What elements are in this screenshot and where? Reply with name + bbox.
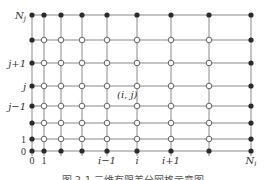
boundary-node [79, 12, 84, 17]
interior-node [58, 136, 64, 142]
y-axis-label: j [21, 81, 26, 92]
interior-node [79, 136, 85, 142]
interior-node [134, 136, 140, 142]
interior-node [58, 60, 64, 66]
interior-node [206, 136, 212, 142]
boundary-node [134, 12, 139, 17]
boundary-node [168, 12, 173, 17]
interior-node [104, 120, 110, 126]
boundary-node [29, 83, 34, 88]
boundary-node [248, 37, 253, 42]
boundary-node [134, 148, 139, 153]
x-axis-label: i−1 [98, 155, 116, 166]
interior-node [168, 103, 174, 109]
interior-node [104, 37, 110, 43]
interior-node [134, 103, 140, 109]
boundary-node [248, 83, 253, 88]
boundary-node [58, 148, 63, 153]
boundary-node [104, 12, 109, 17]
boundary-node [206, 148, 211, 153]
y-axis-label: j+1 [6, 58, 26, 69]
boundary-node [29, 12, 34, 17]
boundary-node [206, 12, 211, 17]
boundary-node [248, 60, 253, 65]
interior-node [41, 83, 47, 89]
point-label-i-j: (i, j) [117, 89, 138, 100]
interior-node [206, 120, 212, 126]
interior-node [41, 37, 47, 43]
boundary-node [29, 60, 34, 65]
boundary-node [79, 148, 84, 153]
boundary-node [168, 148, 173, 153]
interior-node [41, 120, 47, 126]
interior-node [104, 136, 110, 142]
interior-node [41, 60, 47, 66]
boundary-node [248, 12, 253, 17]
boundary-node [248, 103, 253, 108]
boundary-node [248, 120, 253, 125]
boundary-node [104, 148, 109, 153]
interior-node [206, 103, 212, 109]
x-axis-label: 0 [30, 155, 35, 166]
interior-node [168, 120, 174, 126]
interior-node [168, 37, 174, 43]
boundary-node [41, 12, 46, 17]
y-axis-label: Nj [14, 10, 27, 23]
boundary-node [29, 37, 34, 42]
y-axis-label: j−1 [6, 101, 26, 112]
interior-node [58, 103, 64, 109]
x-axis-label: i+1 [162, 155, 180, 166]
boundary-node [41, 148, 46, 153]
interior-node [168, 136, 174, 142]
finite-difference-grid-diagram: 01i−1ii+1Ni 01j−1jj+1Nj (i, j) 图 2-1 二维有… [0, 0, 267, 180]
boundary-node [58, 12, 63, 17]
interior-node [134, 83, 140, 89]
boundary-node [248, 148, 253, 153]
boundary-node [248, 136, 253, 141]
x-axis-label: 1 [42, 155, 47, 166]
y-axis-label: 0 [21, 146, 26, 157]
interior-node [104, 103, 110, 109]
y-axis-labels: 01j−1jj+1Nj [6, 10, 27, 157]
grid-lines [32, 15, 251, 156]
interior-node [206, 83, 212, 89]
grid-nodes [29, 12, 253, 153]
interior-node [79, 60, 85, 66]
interior-node [41, 103, 47, 109]
interior-node [168, 60, 174, 66]
x-axis-label: i [135, 155, 138, 166]
x-axis-label: Ni [245, 155, 257, 168]
x-axis-labels: 01i−1ii+1Ni [30, 155, 257, 168]
figure-caption: 图 2-1 二维有限差分网格示意图 [62, 174, 205, 180]
interior-node [58, 37, 64, 43]
interior-node [79, 83, 85, 89]
interior-node [206, 37, 212, 43]
interior-node [168, 83, 174, 89]
boundary-node [29, 136, 34, 141]
boundary-node [29, 148, 34, 153]
boundary-node [29, 120, 34, 125]
interior-node [104, 83, 110, 89]
boundary-node [29, 103, 34, 108]
interior-node [58, 83, 64, 89]
interior-node [58, 120, 64, 126]
interior-node [134, 60, 140, 66]
interior-node [79, 37, 85, 43]
interior-node [134, 37, 140, 43]
interior-node [104, 60, 110, 66]
interior-node [206, 60, 212, 66]
interior-node [41, 136, 47, 142]
interior-node [134, 120, 140, 126]
y-axis-label: 1 [21, 134, 26, 145]
interior-node [79, 120, 85, 126]
interior-node [79, 103, 85, 109]
